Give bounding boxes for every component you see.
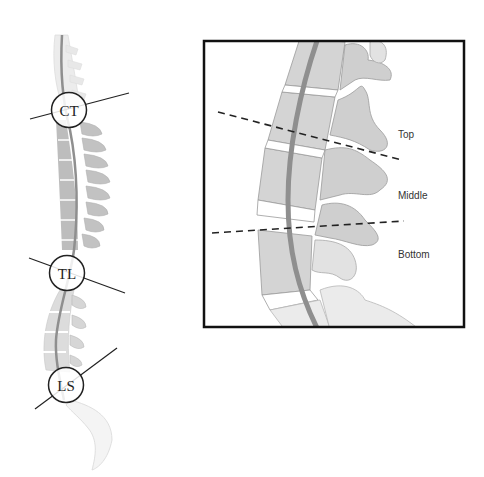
- spine-diagram: CT TL LS: [0, 0, 484, 477]
- marker-tl: TL: [29, 256, 125, 294]
- marker-label-ct: CT: [59, 103, 78, 119]
- zone-label-bottom: Bottom: [398, 249, 430, 260]
- zoomed-junction-panel: Top Middle Bottom: [204, 38, 464, 330]
- marker-ct: CT: [30, 93, 129, 128]
- marker-label-ls: LS: [57, 378, 75, 394]
- zone-label-middle: Middle: [398, 190, 428, 201]
- zone-label-top: Top: [398, 129, 415, 140]
- marker-label-tl: TL: [58, 266, 76, 282]
